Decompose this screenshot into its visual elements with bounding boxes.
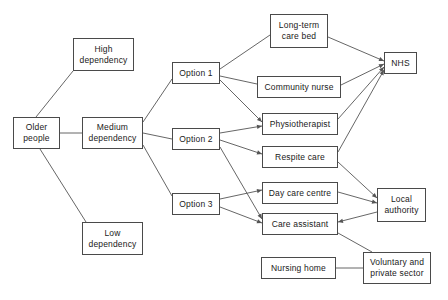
node-day_care[interactable]: Day care centre [262, 182, 338, 204]
edge-medium_dep-to-option3 [143, 145, 172, 196]
node-label: Medium dependency [88, 122, 136, 144]
edge-option1-to-community_nurse [220, 76, 257, 84]
node-care_assistant[interactable]: Care assistant [262, 213, 338, 235]
node-label: Care assistant [272, 219, 329, 230]
node-label: Nursing home [271, 263, 326, 274]
edge-option3-to-care_assistant [220, 207, 262, 223]
node-nursing_home[interactable]: Nursing home [261, 257, 336, 279]
node-long_term_bed[interactable]: Long-term care bed [270, 14, 328, 48]
node-community_nurse[interactable]: Community nurse [257, 76, 341, 98]
diagram-canvas: Older peopleHigh dependencyMedium depend… [0, 0, 448, 300]
edge-physiotherapist-to-nhs [338, 67, 384, 119]
node-label: Option 2 [179, 134, 213, 145]
edge-day_care-to-local_authority [338, 192, 377, 204]
node-medium_dep[interactable]: Medium dependency [82, 117, 143, 149]
node-label: Physiotherapist [270, 119, 331, 130]
node-option2[interactable]: Option 2 [172, 128, 220, 150]
edge-long_term_bed-to-nhs [328, 37, 384, 61]
node-label: Older people [23, 122, 50, 144]
node-label: Local authority [384, 194, 418, 216]
node-nhs[interactable]: NHS [384, 52, 417, 74]
node-label: Day care centre [269, 188, 332, 199]
node-label: Respite care [275, 152, 325, 163]
edge-medium_dep-to-option1 [143, 79, 172, 122]
node-physiotherapist[interactable]: Physiotherapist [262, 113, 338, 135]
node-label: Long-term care bed [279, 20, 319, 42]
edge-option2-to-care_assistant [220, 147, 262, 219]
node-label: NHS [391, 58, 409, 69]
node-respite_care[interactable]: Respite care [262, 146, 338, 168]
node-label: Option 3 [179, 199, 213, 210]
node-option3[interactable]: Option 3 [172, 193, 220, 215]
node-label: High dependency [79, 44, 127, 66]
edge-local_authority-to-care_assistant [338, 212, 377, 223]
edge-option1-to-physiotherapist [220, 80, 262, 122]
edge-care_assistant-to-voluntary [338, 233, 372, 252]
node-option1[interactable]: Option 1 [172, 62, 220, 84]
edge-option3-to-day_care [220, 189, 262, 199]
node-older_people[interactable]: Older people [13, 117, 60, 149]
edge-community_nurse-to-nhs [341, 64, 384, 85]
edge-option1-to-long_term_bed [220, 35, 270, 69]
node-low_dep[interactable]: Low dependency [82, 222, 143, 255]
node-voluntary[interactable]: Voluntary and private sector [363, 252, 431, 284]
node-local_authority[interactable]: Local authority [377, 188, 426, 222]
edge-respite_care-to-local_authority [338, 162, 377, 198]
node-label: Option 1 [179, 68, 213, 79]
edge-older_people-to-low_dep [40, 149, 86, 222]
edge-medium_dep-to-option2 [143, 133, 172, 139]
edge-option2-to-physiotherapist [220, 125, 262, 133]
edge-option2-to-respite_care [220, 140, 262, 155]
node-label: Community nurse [264, 82, 333, 93]
node-high_dep[interactable]: High dependency [73, 38, 134, 71]
node-label: Voluntary and private sector [370, 257, 424, 279]
edge-respite_care-to-nhs [338, 70, 384, 152]
node-label: Low dependency [88, 228, 136, 250]
edge-older_people-to-high_dep [36, 71, 73, 117]
